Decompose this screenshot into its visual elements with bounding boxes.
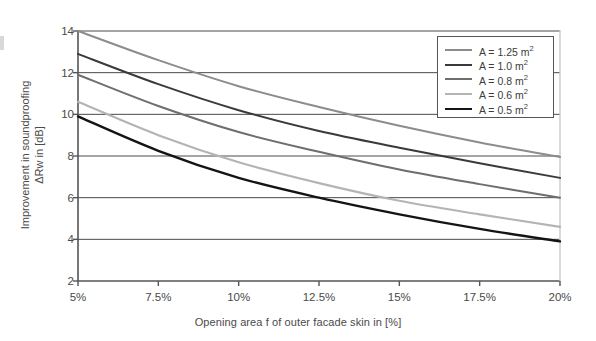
x-tick-label-3: 12.5% [303,291,336,303]
legend-label-superscript: 2 [524,102,528,111]
legend-item-4: A = 0.5 m2 [445,101,546,116]
legend-swatch-line-icon [445,93,472,95]
legend-label-2: A = 0.8 m2 [479,73,528,87]
legend-label-superscript: 2 [530,44,534,53]
legend-item-1: A = 1.0 m2 [445,58,546,73]
legend-label-superscript: 2 [524,87,528,96]
legend-label-1: A = 1.0 m2 [479,58,528,72]
legend-label-superscript: 2 [524,73,528,82]
chart-legend: A = 1.25 m2A = 1.0 m2A = 0.8 m2A = 0.6 m… [437,36,554,118]
legend-label-3: A = 0.6 m2 [479,87,528,101]
legend-item-0: A = 1.25 m2 [445,43,546,58]
y-axis-title-line2: ΔRᴡ in [dB] [33,55,47,255]
legend-label-0: A = 1.25 m2 [479,44,534,58]
legend-label-superscript: 2 [524,58,528,67]
legend-swatch-line-icon [445,108,472,110]
chart-container: Improvement in soundproofing ΔRᴡ in [dB]… [0,0,596,341]
y-axis-title: Improvement in soundproofing ΔRᴡ in [dB] [19,55,49,255]
page-edge-mark [0,36,4,50]
legend-swatch-line-icon [445,64,472,66]
legend-item-2: A = 0.8 m2 [445,72,546,87]
y-tick-label-4: 4 [46,233,74,245]
y-axis-title-line1: Improvement in soundproofing [19,55,33,255]
y-tick-label-10: 10 [46,108,74,120]
series-line-4 [78,116,560,241]
x-tick-label-0: 5% [70,291,87,303]
x-tick-label-4: 15% [388,291,411,303]
y-tick-label-8: 8 [46,150,74,162]
x-axis-tick-labels: 5%7.5%10%12.5%15%17.5%20% [0,283,596,307]
legend-swatch-line-icon [445,49,472,51]
x-tick-label-2: 10% [227,291,250,303]
legend-swatch-line-icon [445,78,472,80]
x-axis-title: Opening area f of outer facade skin in [… [0,316,596,328]
x-tick-label-5: 17.5% [463,291,496,303]
x-tick-label-6: 20% [548,291,571,303]
legend-label-4: A = 0.5 m2 [479,102,528,116]
y-tick-label-6: 6 [46,192,74,204]
legend-item-3: A = 0.6 m2 [445,87,546,102]
x-tick-label-1: 7.5% [145,291,171,303]
y-tick-label-14: 14 [46,25,74,37]
y-tick-label-12: 12 [46,67,74,79]
